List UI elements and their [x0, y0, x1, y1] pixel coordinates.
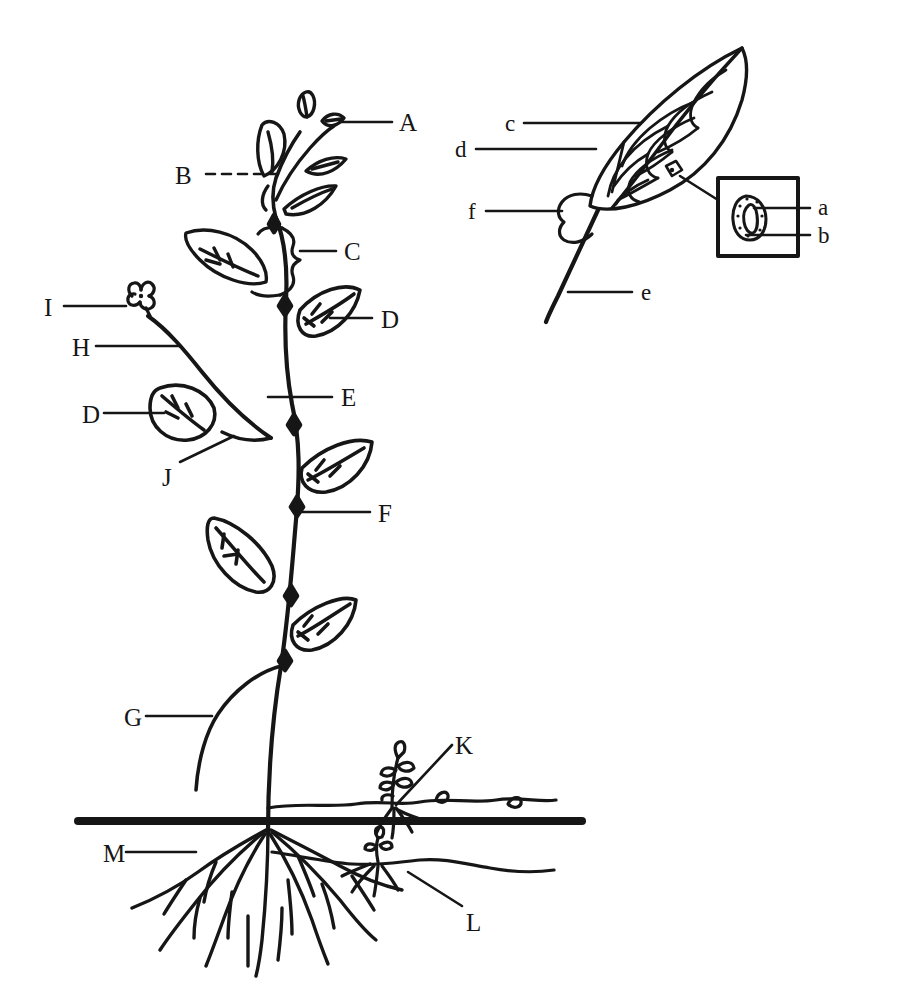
- label-C: C: [344, 239, 361, 264]
- stomata-callout-line: [680, 176, 718, 200]
- label-e: e: [641, 281, 651, 304]
- leader-K: [396, 745, 452, 805]
- label-D-upper: D: [381, 307, 399, 332]
- stoma: [733, 196, 766, 240]
- label-b: b: [818, 224, 830, 247]
- shoot-tip-cluster: [258, 92, 346, 215]
- stomata-callout-marker: [666, 161, 682, 176]
- leaf-lower-right: [292, 598, 356, 650]
- label-D-branch: D: [82, 402, 100, 427]
- label-H: H: [72, 335, 90, 360]
- label-c: c: [505, 112, 515, 135]
- rhizome: [272, 827, 554, 896]
- label-d: d: [455, 138, 467, 161]
- diagram-artwork: [0, 0, 900, 1007]
- main-stem: [268, 132, 300, 833]
- label-a: a: [818, 196, 828, 219]
- root-system: [132, 826, 402, 976]
- flower: [128, 282, 154, 316]
- label-A: A: [399, 110, 417, 135]
- label-J: J: [162, 465, 172, 490]
- lateral-branch: [148, 316, 271, 438]
- label-K: K: [455, 733, 473, 758]
- label-M: M: [103, 841, 125, 866]
- leaf-upper-left: [186, 230, 267, 284]
- label-I: I: [44, 295, 52, 320]
- leaf-lower-left: [207, 518, 274, 592]
- leaf-mid-right: [301, 440, 372, 492]
- leaf-detail-petiole: [546, 210, 598, 322]
- leader-lines: [64, 122, 810, 906]
- label-B: B: [175, 163, 192, 188]
- label-E: E: [341, 385, 356, 410]
- label-F: F: [378, 501, 392, 526]
- label-G: G: [124, 705, 142, 730]
- plant-anatomy-figure: A B C D E I H D J F G K M L c d f e a b: [0, 0, 900, 1007]
- leaf-blade-upper: [298, 287, 360, 336]
- label-f: f: [468, 200, 476, 223]
- internode-brace: [252, 227, 300, 296]
- label-L: L: [466, 910, 481, 935]
- leader-L: [408, 872, 462, 906]
